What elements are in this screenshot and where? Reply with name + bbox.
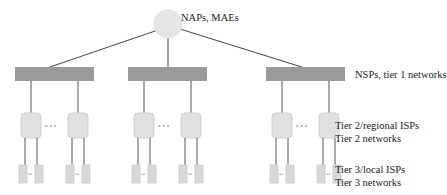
tier2-label-line1: Tier 2/regional ISPs: [335, 120, 419, 132]
nsp-bar: [128, 67, 207, 81]
tier3-isp-box: [148, 165, 156, 183]
tier3-ellipsis: ••: [141, 171, 145, 177]
tier3-isp-box: [132, 165, 140, 183]
tier3-ellipsis: ••: [279, 171, 283, 177]
tier2-label-line2: Tier 2 networks: [335, 133, 401, 145]
tier2-ellipsis: • • •: [158, 122, 170, 129]
tier2-isp-box: [68, 113, 88, 138]
tier3-ellipsis: ••: [326, 171, 330, 177]
tier3-isp-box: [195, 165, 203, 183]
tier3-isp-box: [179, 165, 187, 183]
tier1-label: NSPs, tier 1 networks: [355, 69, 447, 81]
tier2-isp-box: [272, 113, 292, 138]
nap-label: NAPs, MAEs: [181, 12, 239, 24]
tier3-ellipsis: ••: [75, 171, 79, 177]
tier3-isp-box: [270, 165, 278, 183]
tier2-isp-box: [181, 113, 201, 138]
tier2-ellipsis: • • •: [45, 122, 57, 129]
tier3-label-line1: Tier 3/local ISPs: [335, 164, 405, 176]
tier3-isp-box: [317, 165, 325, 183]
nsp-bar: [15, 67, 94, 81]
tier3-isp-box: [19, 165, 27, 183]
tier3-isp-box: [35, 165, 43, 183]
tier3-isp-box: [82, 165, 90, 183]
tier2-isp-box: [134, 113, 154, 138]
nap-mae-node: [154, 10, 182, 38]
tier3-isp-box: [66, 165, 74, 183]
tier2-ellipsis: • • •: [296, 122, 308, 129]
tier3-ellipsis: ••: [28, 171, 32, 177]
tier3-ellipsis: ••: [188, 171, 192, 177]
tier3-label-line2: Tier 3 networks: [335, 177, 401, 189]
tier3-isp-box: [286, 165, 294, 183]
tier2-isp-box: [21, 113, 41, 138]
nsp-bar: [266, 67, 345, 81]
